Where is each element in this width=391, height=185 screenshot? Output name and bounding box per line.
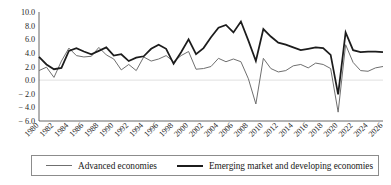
x-tick-label: 2022 — [337, 121, 355, 139]
x-tick-label: 2018 — [307, 121, 325, 139]
y-tick-label: 8.0 — [25, 22, 35, 31]
chart-container: 10.08.06.04.02.00.0− 2.0− 4.0− 6.0 19801… — [0, 0, 391, 185]
y-tick-label: 4.0 — [25, 49, 35, 58]
x-tick-label: 2020 — [322, 121, 340, 139]
x-tick-label: 1984 — [53, 121, 71, 139]
legend-label-advanced-economies: Advanced economies — [78, 161, 157, 171]
x-tick-label: 1986 — [68, 121, 86, 139]
chart-legend: Advanced economies Emerging market and d… — [31, 155, 379, 176]
y-tick-label: − 4.0 — [19, 103, 35, 112]
x-tick-label: 2024 — [352, 121, 370, 139]
x-tick-label: 2006 — [217, 121, 235, 139]
x-tick-label: 1982 — [38, 121, 56, 139]
legend-line-swatch-advanced-icon — [46, 165, 72, 166]
legend-item-advanced-economies: Advanced economies — [46, 161, 157, 171]
x-tick-label: 2026 — [367, 121, 385, 139]
legend-item-emerging-economies: Emerging market and developing economies — [177, 161, 373, 171]
x-tick-label: 1992 — [112, 121, 130, 139]
y-tick-label: 0.0 — [25, 76, 35, 85]
series-line-emerging-economies — [39, 22, 383, 95]
y-axis-tick-labels: 10.08.06.04.02.00.0− 2.0− 4.0− 6.0 — [19, 8, 35, 126]
x-tick-label: 2008 — [232, 121, 250, 139]
x-tick-label: 2012 — [262, 121, 280, 139]
x-tick-label: 2014 — [277, 121, 295, 139]
y-tick-label: − 2.0 — [19, 90, 35, 99]
y-tick-label: 6.0 — [25, 35, 35, 44]
legend-label-emerging-economies: Emerging market and developing economies — [209, 161, 373, 171]
y-tick-label: 2.0 — [25, 63, 35, 72]
x-axis-tick-labels: 1980198219841986198819901992199419961998… — [23, 121, 385, 139]
x-tick-label: 2004 — [202, 121, 220, 139]
x-tick-label: 2010 — [247, 121, 265, 139]
x-tick-label: 1998 — [157, 121, 175, 139]
x-tick-label: 1994 — [127, 121, 145, 139]
x-tick-label: 1996 — [142, 121, 160, 139]
x-tick-label: 1988 — [83, 121, 101, 139]
legend-line-swatch-emerging-icon — [177, 165, 203, 167]
x-tick-label: 2000 — [172, 121, 190, 139]
y-tick-label: 10.0 — [21, 8, 35, 17]
x-tick-label: 2002 — [187, 121, 205, 139]
x-tick-label: 1990 — [98, 121, 116, 139]
x-tick-label: 2016 — [292, 121, 310, 139]
